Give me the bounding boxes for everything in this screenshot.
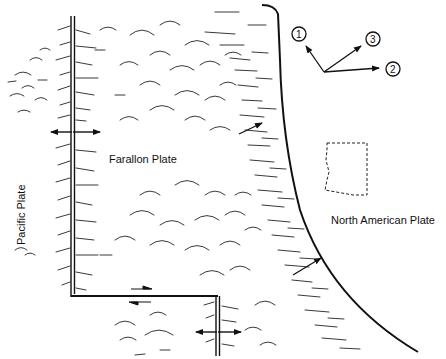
vector-3-arrow: [324, 46, 361, 72]
vector-1-label: 1: [296, 29, 302, 40]
north-american-plate-label: North American Plate: [331, 214, 435, 226]
motion-vector-diagram: [292, 27, 400, 76]
vector-2-label: 2: [390, 64, 396, 75]
farallon-plate-label: Farallon Plate: [109, 153, 177, 165]
arizona-outline: [325, 143, 367, 195]
vector-1-arrow: [306, 46, 324, 72]
plate-tectonics-diagram: 1 3 2: [0, 0, 446, 359]
spreading-ridge-south: [216, 296, 220, 356]
ridge-hatching: [56, 26, 238, 346]
convergence-arrows: [239, 123, 321, 275]
vector-2-arrow: [324, 68, 379, 72]
subduction-trench: [262, 5, 418, 352]
pacific-plate-label: Pacific Plate: [15, 184, 27, 245]
vector-3-label: 3: [370, 34, 376, 45]
seafloor-texture: [8, 21, 276, 355]
spreading-ridge-north: [71, 16, 75, 297]
